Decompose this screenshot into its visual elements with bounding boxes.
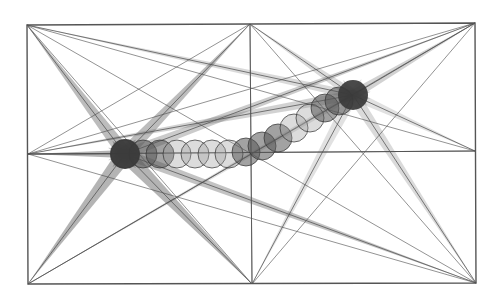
- geometric-construction: [0, 0, 501, 301]
- end-node: [338, 80, 368, 110]
- beam-axis: [125, 154, 476, 283]
- start-node: [110, 139, 140, 169]
- beam-axis: [28, 154, 125, 284]
- diagram-canvas: [0, 0, 501, 301]
- beam-axis: [27, 25, 125, 154]
- construction-line: [252, 23, 475, 284]
